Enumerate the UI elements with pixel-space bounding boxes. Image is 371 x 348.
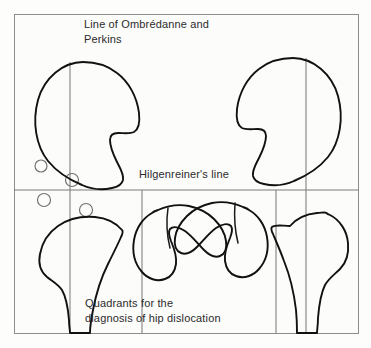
figure-caption: Quadrants for the diagnosis of hip dislo… <box>85 296 275 325</box>
hip-dislocation-quadrants-figure: Line of Ombrédanne and Perkins Hilgenrei… <box>0 0 371 348</box>
hilgenreiner-label: Hilgenreiner's line <box>139 167 289 182</box>
ombredanne-perkins-label: Line of Ombrédanne and Perkins <box>84 17 244 46</box>
